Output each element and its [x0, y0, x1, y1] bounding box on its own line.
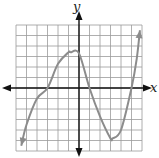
cubic-graph	[0, 0, 159, 158]
x-axis-label: x	[150, 81, 157, 94]
x-axis-left-arrow-icon	[2, 85, 11, 92]
y-axis	[76, 11, 83, 157]
x-axis	[2, 85, 152, 92]
y-axis-down-arrow-icon	[76, 148, 83, 157]
y-axis-label: y	[73, 0, 80, 13]
